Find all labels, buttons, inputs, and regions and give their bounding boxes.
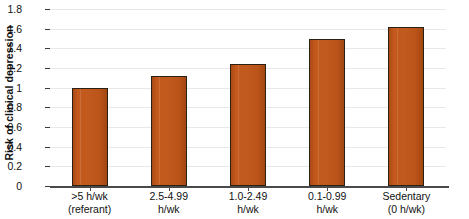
y-tick-mark [45,48,50,49]
x-tick-label: 2.5-4.99h/wk [129,190,208,216]
x-tick-label-line: h/wk [288,203,367,216]
plot-area: 00.20.40.60.811.21.41.61.8 [50,9,446,186]
y-tick-label: 1.6 [0,23,22,35]
gridline [50,9,446,10]
bar-highlight [159,77,160,185]
x-tick-label-line: Sedentary [382,190,430,202]
y-tick-label: 1.4 [0,42,22,54]
y-tick-mark [45,88,50,89]
x-tick-label: Sedentary(0 h/wk) [367,190,446,216]
y-tick-mark [45,29,50,30]
bar-highlight [318,40,319,185]
y-tick-mark [45,166,50,167]
y-tick-label: 1 [0,82,22,94]
x-tick-label-line: h/wk [208,203,287,216]
y-tick-label: 0 [0,180,22,192]
y-tick-label: 1.8 [0,3,22,15]
bar [388,27,424,186]
x-tick-label-line: 0.1-0.99 [308,190,347,202]
x-tick-label-line: 2.5-4.99 [150,190,189,202]
bar [309,39,345,186]
bar-chart: Risk of clinical depression 00.20.40.60.… [0,0,469,219]
bar-highlight [80,89,81,185]
x-tick-label-line: >5 h/wk [71,190,107,202]
y-tick-mark [45,68,50,69]
gridline [50,29,446,30]
x-tick-label-line: 1.0-2.49 [229,190,268,202]
x-tick-label: 0.1-0.99h/wk [288,190,367,216]
y-tick-label: 0.8 [0,101,22,113]
y-tick-label: 0.6 [0,121,22,133]
y-tick-label: 1.2 [0,62,22,74]
y-tick-mark [45,186,50,187]
bar-highlight [397,28,398,185]
x-tick-label-line: (0 h/wk) [367,203,446,216]
x-axis-line [50,186,449,188]
y-tick-mark [45,147,50,148]
bar [230,64,266,186]
bar-highlight [238,65,239,185]
y-tick-mark [45,9,50,10]
y-tick-label: 0.2 [0,160,22,172]
y-tick-mark [45,107,50,108]
x-tick-label-line: h/wk [129,203,208,216]
y-tick-mark [45,127,50,128]
gridline [50,48,446,49]
y-tick-label: 0.4 [0,141,22,153]
bar [72,88,108,186]
x-tick-label: 1.0-2.49h/wk [208,190,287,216]
bar [151,76,187,186]
x-tick-label: >5 h/wk(referant) [50,190,129,216]
x-tick-label-line: (referant) [50,203,129,216]
